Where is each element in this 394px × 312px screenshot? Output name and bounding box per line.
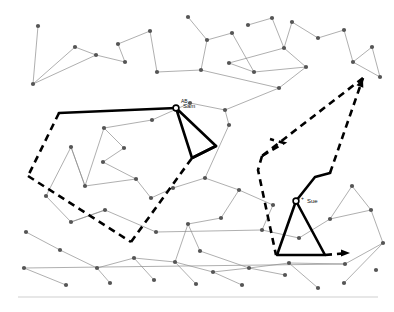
network-edge: [344, 243, 383, 283]
network-node: [343, 262, 347, 266]
network-node: [152, 278, 156, 282]
network-node: [24, 230, 28, 234]
trajectory-dashed-sam-route: [131, 158, 192, 242]
network-edge: [345, 243, 383, 264]
network-edge: [353, 47, 372, 62]
network-edge: [201, 70, 279, 88]
network-node: [282, 46, 286, 50]
network-node: [101, 160, 105, 164]
network-edge: [229, 48, 284, 63]
network-node: [246, 23, 250, 27]
network-node: [108, 281, 112, 285]
network-edge: [103, 162, 136, 179]
network-edge: [254, 67, 306, 72]
network-edge: [262, 230, 299, 238]
network-edge: [213, 268, 249, 272]
network-edge: [292, 22, 318, 38]
network-edge: [225, 110, 229, 125]
network-edge: [118, 44, 125, 62]
trajectory-dashed-sam-route: [28, 113, 59, 176]
network-edge: [330, 186, 352, 219]
network-edge: [279, 67, 306, 88]
network-node: [69, 145, 73, 149]
agent-label-sue: Sue: [307, 198, 318, 204]
network-node: [237, 188, 241, 192]
network-edge: [249, 263, 289, 268]
network-node: [103, 208, 107, 212]
network-node: [44, 194, 48, 198]
trajectory-dashed-sue-route: [330, 78, 363, 173]
network-node: [132, 256, 136, 260]
network-edge: [134, 258, 175, 262]
network-edge: [201, 40, 207, 70]
network-node: [150, 118, 154, 122]
network-edge: [118, 31, 150, 44]
network-node: [58, 248, 62, 252]
network-edge: [71, 147, 85, 186]
network-edge: [157, 70, 201, 72]
trajectory-solid-sue-route: [277, 201, 325, 255]
trajectory-arrowhead: [341, 249, 350, 256]
network-node: [69, 220, 73, 224]
network-node: [154, 230, 158, 234]
network-node: [277, 86, 281, 90]
network-edge: [344, 30, 353, 62]
network-node: [328, 217, 332, 221]
trajectory-dashed-sue-route: [262, 78, 363, 156]
network-node: [247, 266, 251, 270]
network-edge: [71, 210, 105, 222]
network-edge: [188, 224, 200, 251]
network-node: [64, 283, 68, 287]
network-edge: [232, 33, 254, 72]
network-node: [148, 29, 152, 33]
agent-glyph-sue: +: [301, 195, 304, 201]
network-node: [173, 260, 177, 264]
network-node: [94, 53, 98, 57]
network-node: [123, 60, 127, 64]
network-node: [149, 196, 153, 200]
network-node: [31, 82, 35, 86]
network-edge: [188, 218, 221, 224]
network-node: [369, 208, 373, 212]
network-node: [304, 65, 308, 69]
network-edge: [205, 178, 239, 190]
network-edge: [248, 18, 272, 25]
network-node: [316, 286, 320, 290]
network-edge: [289, 263, 318, 288]
network-node: [342, 28, 346, 32]
network-node: [316, 36, 320, 40]
network-node: [171, 186, 175, 190]
network-node: [116, 42, 120, 46]
network-node: [122, 146, 126, 150]
network-edge: [213, 272, 242, 285]
agent-marker-group: ABSam+Sue: [173, 98, 318, 204]
figure-canvas: ABSam+Sue: [0, 0, 394, 312]
network-node: [283, 273, 287, 277]
network-edge: [156, 230, 262, 232]
network-edge: [205, 125, 229, 178]
network-node: [342, 281, 346, 285]
network-node: [270, 16, 274, 20]
network-node: [211, 270, 215, 274]
agent-marker-sue: [293, 198, 299, 204]
trajectory-network-figure: ABSam+Sue: [0, 0, 394, 312]
network-edge: [284, 22, 292, 48]
network-edge: [85, 128, 104, 186]
network-node: [378, 75, 382, 79]
network-node: [199, 68, 203, 72]
network-edge: [75, 47, 96, 55]
network-edge: [239, 190, 273, 205]
network-edge: [150, 31, 157, 72]
network-edge: [103, 148, 124, 162]
network-node: [36, 24, 40, 28]
network-edge: [46, 196, 71, 222]
agent-marker-sam: [173, 105, 179, 111]
network-edge: [372, 47, 380, 77]
network-node: [223, 108, 227, 112]
network-node: [271, 203, 275, 207]
network-edge: [134, 258, 154, 280]
network-edge: [24, 268, 66, 285]
network-node: [205, 38, 209, 42]
network-node: [350, 184, 354, 188]
network-edge: [225, 88, 279, 110]
